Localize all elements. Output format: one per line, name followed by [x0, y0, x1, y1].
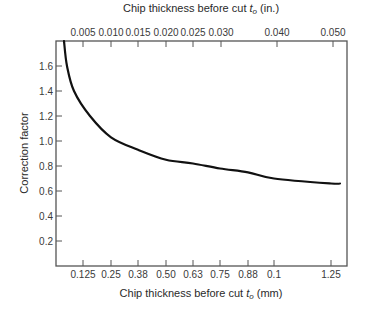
x2-tick-label: 0.050 [320, 27, 345, 38]
y-tick-label: 1.6 [39, 61, 53, 72]
top-axis-ticks: 0.0050.0100.0150.0200.0250.0300.0400.050 [70, 27, 345, 47]
x2-tick-label: 0.005 [70, 27, 95, 38]
y-tick-label: 1.4 [39, 86, 53, 97]
y-axis-title: Correction factor [18, 112, 30, 194]
x-tick-label: 0.50 [156, 269, 176, 280]
y-axis-ticks: 0.20.40.60.81.01.21.41.6 [39, 61, 62, 247]
x-tick-label: 0.25 [101, 269, 121, 280]
y-tick-label: 0.8 [39, 161, 53, 172]
x2-tick-label: 0.020 [153, 27, 178, 38]
y-tick-label: 0.6 [39, 186, 53, 197]
top-axis-title: Chip thickness before cut to (in.) [123, 2, 279, 16]
bottom-axis-title: Chip thickness before cut to (mm) [120, 287, 283, 301]
correction-factor-curve [64, 41, 340, 184]
x-tick-label: 0.88 [238, 269, 258, 280]
x2-tick-label: 0.040 [264, 27, 289, 38]
x2-tick-label: 0.030 [208, 27, 233, 38]
x-tick-label: 0.75 [210, 269, 230, 280]
x2-tick-label: 0.025 [180, 27, 205, 38]
bottom-axis-ticks: 0.1250.250.380.500.630.750.880.11.25 [70, 260, 341, 280]
x-tick-label: 0.38 [128, 269, 148, 280]
y-tick-label: 0.2 [39, 236, 53, 247]
x-tick-label: 0.125 [70, 269, 95, 280]
x2-tick-label: 0.010 [98, 27, 123, 38]
y-tick-label: 1.0 [39, 136, 53, 147]
x-tick-label: 0.1 [267, 269, 281, 280]
x-tick-label: 0.63 [183, 269, 203, 280]
y-tick-label: 1.2 [39, 111, 53, 122]
y-tick-label: 0.4 [39, 211, 53, 222]
x-tick-label: 1.25 [321, 269, 341, 280]
plot-frame [56, 41, 347, 266]
x2-tick-label: 0.015 [125, 27, 150, 38]
chart: Chip thickness before cut to (in.) 0.005… [0, 0, 367, 309]
